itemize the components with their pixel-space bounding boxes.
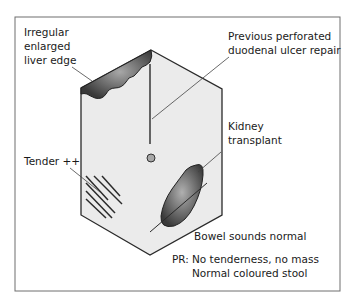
liver-label: Irregular enlarged liver edge bbox=[24, 26, 76, 66]
pr-findings-line2: Normal coloured stool bbox=[192, 267, 307, 279]
bowel-sounds-label: Bowel sounds normal bbox=[194, 230, 306, 242]
tender-label: Tender ++ bbox=[23, 155, 80, 167]
umbilicus-icon bbox=[147, 154, 155, 162]
pr-findings-line1: No tenderness, no mass bbox=[192, 253, 319, 265]
abdominal-findings-diagram: Irregular enlarged liver edge Previous p… bbox=[0, 0, 358, 308]
pr-prefix-label: PR: bbox=[172, 253, 189, 265]
